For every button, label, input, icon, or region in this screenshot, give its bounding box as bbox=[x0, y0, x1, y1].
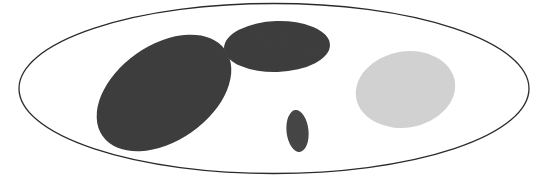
figure-canvas bbox=[0, 0, 551, 185]
ellipse-diagram bbox=[0, 0, 551, 185]
